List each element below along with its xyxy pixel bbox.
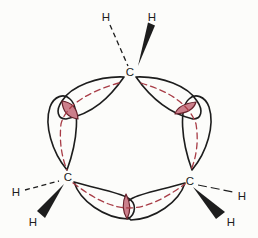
hydrogen-label-lower-left: H <box>29 216 37 228</box>
dashed-bond-left <box>25 181 59 190</box>
bent-bond-paths-group <box>60 83 197 208</box>
hydrogen-label-top-right: H <box>148 11 156 23</box>
wedge-bond-bottom-right <box>193 187 225 219</box>
orbital-lobes-group <box>48 77 211 220</box>
hydrogen-label-top-left: H <box>102 11 110 23</box>
carbon-label-bottom-right: C <box>186 175 194 187</box>
overlap-regions-group <box>62 101 196 219</box>
orbital-diagram: C C C H H H H H H <box>0 0 258 238</box>
carbon-label-top: C <box>126 66 134 78</box>
hydrogen-label-right: H <box>238 190 246 202</box>
dashed-bonds-group <box>25 25 233 192</box>
wedge-bond-top-right <box>138 23 155 67</box>
dashed-bond-top-left <box>110 25 128 66</box>
bent-bond-right <box>141 83 197 170</box>
orbital-diagram-canvas: C C C H H H H H H <box>0 0 258 238</box>
hydrogen-label-left: H <box>12 186 20 198</box>
orbital-lobe-rightC-left <box>125 183 185 220</box>
dashed-bond-right <box>198 185 233 192</box>
carbon-label-bottom-left: C <box>64 171 72 183</box>
hydrogen-label-lower-right: H <box>227 216 235 228</box>
wedge-bond-bottom-left <box>37 184 64 218</box>
wedge-bonds-group <box>37 23 225 220</box>
overlap-region-right <box>175 102 196 114</box>
bent-bond-left <box>60 83 119 170</box>
